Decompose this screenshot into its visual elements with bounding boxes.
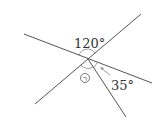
label-unknown-angle: ㄱ [82,75,88,82]
angle-arc-unknown [81,65,93,68]
geometry-diagram: 120° 35° ㄱ [0,0,162,128]
angle-arc-35 [94,63,97,68]
label-35: 35° [111,78,134,93]
label-120: 120° [74,36,105,51]
